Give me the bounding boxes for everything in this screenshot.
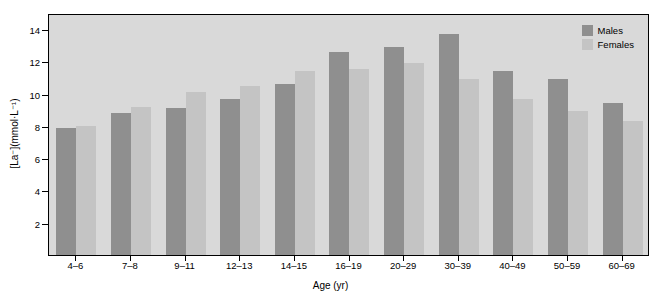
bar-males [548,79,568,255]
y-tick-label: 6 [0,154,40,165]
x-tick-label: 16–19 [321,260,376,271]
bar-females [513,99,533,255]
bar-group [49,126,104,255]
bar-females [568,111,588,255]
legend-swatch-males-icon [582,25,593,36]
y-tick-mark [42,62,48,63]
y-tick-mark [42,127,48,128]
x-tick-label: 30–39 [430,260,485,271]
plot-area: Males Females [48,14,649,256]
x-tick-label: 60–69 [594,260,649,271]
bar-females [186,92,206,255]
x-axis-title: Age (yr) [0,280,661,291]
bar-males [439,34,459,255]
bar-females [295,71,315,255]
y-tick-label: 12 [0,57,40,68]
x-tick-mark [403,256,404,261]
bar-group [486,71,541,255]
legend-item-males: Males [582,25,634,36]
bar-group [431,34,486,255]
x-tick-label: 50–59 [540,260,595,271]
chart-legend: Males Females [582,25,634,53]
bar-females [131,107,151,255]
y-tick-label: 14 [0,25,40,36]
y-tick-mark [42,159,48,160]
bar-females [404,63,424,255]
x-tick-mark [567,256,568,261]
bar-females [240,86,260,255]
bar-group [213,86,268,255]
bar-males [493,71,513,255]
x-tick-label: 14–15 [267,260,322,271]
legend-label-males: Males [598,25,623,36]
bar-group [158,92,213,255]
x-tick-label: 7–8 [103,260,158,271]
bar-males [384,47,404,255]
bar-males [166,108,186,255]
bar-group [268,71,323,255]
bar-males [329,52,349,255]
y-tick-mark [42,224,48,225]
bar-group [595,103,650,255]
y-tick-label: 4 [0,186,40,197]
bar-series-container [49,15,648,255]
bar-group [541,79,596,255]
x-tick-mark [512,256,513,261]
x-tick-label: 20–29 [376,260,431,271]
y-tick-mark [42,191,48,192]
y-tick-mark [42,30,48,31]
y-tick-label: 8 [0,121,40,132]
bar-males [275,84,295,255]
x-tick-label: 12–13 [212,260,267,271]
bar-group [322,52,377,255]
legend-label-females: Females [598,39,634,50]
x-tick-label: 4–6 [48,260,103,271]
x-tick-mark [458,256,459,261]
bar-females [76,126,96,255]
x-tick-mark [239,256,240,261]
x-tick-mark [185,256,186,261]
bar-males [111,113,131,255]
legend-swatch-females-icon [582,39,593,50]
x-tick-mark [622,256,623,261]
bar-males [56,128,76,255]
y-axis-title: [La⁻](mmol·L⁻¹) [9,54,20,214]
bar-males [220,99,240,255]
bar-group [377,47,432,255]
y-tick-label: 2 [0,218,40,229]
y-tick-mark [42,95,48,96]
x-tick-label: 9–11 [157,260,212,271]
bar-group [104,107,159,255]
x-tick-mark [130,256,131,261]
bar-females [459,79,479,255]
bar-females [349,69,369,255]
x-tick-mark [294,256,295,261]
legend-item-females: Females [582,39,634,50]
y-tick-label: 10 [0,89,40,100]
x-tick-mark [349,256,350,261]
chart-figure: Males Females 2468101214 4–67–89–1112–13… [0,0,661,305]
x-tick-label: 40–49 [485,260,540,271]
bar-females [623,121,643,255]
x-tick-mark [75,256,76,261]
bar-males [603,103,623,255]
